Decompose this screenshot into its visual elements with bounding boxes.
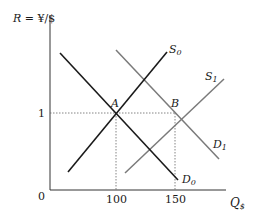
y-axis-label-rest: = ¥/$ [21, 12, 55, 25]
curve-s0 [68, 52, 167, 172]
curve-label-s1: S1 [205, 70, 218, 84]
point-b-label: B [170, 97, 179, 110]
tick-y-1: 1 [38, 107, 45, 120]
tick-x-100: 100 [106, 193, 127, 206]
curve-s1 [125, 79, 224, 173]
curve-label-d1: D1 [212, 138, 227, 152]
origin-label: 0 [38, 190, 45, 203]
point-a-label: A [110, 97, 119, 110]
x-axis-label: Q$ [230, 196, 245, 211]
y-axis-label: R = ¥/$ [12, 12, 55, 25]
curve-label-s0: S0 [169, 43, 182, 57]
supply-demand-chart: R = ¥/$ Q$ 0 100 150 1 A B S0 S1 D1 D0 [0, 0, 257, 216]
tick-x-150: 150 [165, 193, 186, 206]
curve-d1 [116, 50, 219, 159]
curve-label-d0: D0 [181, 173, 196, 187]
